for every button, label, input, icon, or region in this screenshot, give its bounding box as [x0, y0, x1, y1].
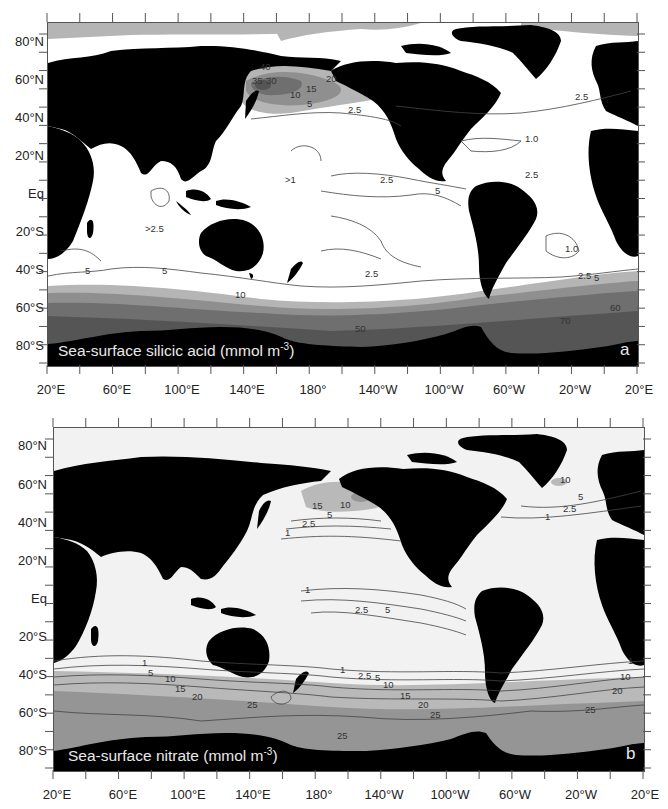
nitrate-map: [54, 428, 644, 771]
panel-letter-a: a: [620, 340, 629, 360]
x-tick-label: 60°W: [479, 382, 539, 397]
x-tick-label: 140°W: [354, 787, 414, 802]
x-tick-label: 100°W: [414, 382, 474, 397]
x-tick-label: 60°E: [93, 787, 153, 802]
x-tick-label: 60°E: [87, 382, 147, 397]
y-tick-label: 80°N: [3, 438, 47, 453]
y-tick-label: 80°S: [3, 743, 47, 758]
y-tick-label: Eq: [3, 591, 47, 606]
y-tick-label: 80°N: [0, 34, 44, 49]
caption-nitrate: Sea-surface nitrate (mmol m-3): [68, 746, 278, 765]
y-tick-label: 60°N: [0, 72, 44, 87]
y-tick-label: 20°N: [3, 553, 47, 568]
x-tick-label: 20°W: [551, 787, 611, 802]
x-tick-label: 20°W: [545, 382, 605, 397]
caption-silicic-acid: Sea-surface silicic acid (mmol m-3): [58, 341, 294, 360]
map-frame-b: Sea-surface nitrate (mmol m-3) b: [53, 427, 645, 772]
y-tick-label: 60°S: [3, 705, 47, 720]
y-tick-label: 40°S: [3, 667, 47, 682]
y-tick-label: 60°N: [3, 477, 47, 492]
x-tick-label: 140°E: [217, 382, 277, 397]
x-tick-label: 100°E: [152, 382, 212, 397]
x-tick-label: 100°W: [420, 787, 480, 802]
y-tick-label: 40°S: [0, 262, 44, 277]
map-frame-a: Sea-surface silicic acid (mmol m-3) a: [47, 22, 639, 367]
y-tick-label: 40°N: [3, 515, 47, 530]
x-tick-label: 20°E: [21, 382, 81, 397]
y-tick-label: 80°S: [0, 338, 44, 353]
x-tick-label: 60°W: [485, 787, 545, 802]
x-tick-label: 20°E: [609, 382, 668, 397]
y-tick-label: 20°N: [0, 148, 44, 163]
silicic-acid-map: [48, 23, 638, 366]
y-tick-label: 20°S: [0, 224, 44, 239]
y-tick-label: 60°S: [0, 300, 44, 315]
x-tick-label: 140°E: [223, 787, 283, 802]
x-tick-label: 180°: [289, 787, 349, 802]
y-tick-label: 20°S: [3, 629, 47, 644]
x-tick-label: 140°W: [348, 382, 408, 397]
x-tick-label: 100°E: [158, 787, 218, 802]
panel-letter-b: b: [626, 744, 635, 764]
y-tick-label: Eq: [0, 186, 44, 201]
x-tick-label: 180°: [283, 382, 343, 397]
x-tick-label: 20°E: [615, 787, 668, 802]
x-tick-label: 20°E: [27, 787, 87, 802]
y-tick-label: 40°N: [0, 110, 44, 125]
